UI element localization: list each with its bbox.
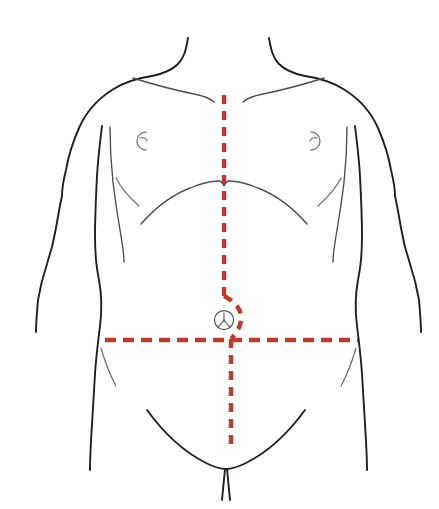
nipple-right-icon [310, 132, 320, 150]
flank-crease-left [101, 348, 116, 386]
umbilicus-icon [215, 311, 234, 330]
nipple-left-icon [137, 132, 147, 150]
shoulder-arm-left-outline [36, 76, 152, 332]
pectoral-crease-right [318, 178, 341, 206]
neck-right-line [269, 38, 305, 76]
costal-margin-line [141, 181, 307, 224]
pubic-cleft-line-2 [227, 469, 230, 500]
pectoral-crease-left [116, 178, 139, 206]
neck-left-line [152, 38, 188, 76]
pubic-cleft-line [222, 469, 225, 500]
anatomy-diagram-canvas: — — — — — — — —— [0, 0, 439, 509]
torso-illustration [0, 0, 439, 509]
inner-arm-left-line [90, 126, 102, 470]
inner-arm-right-line [355, 126, 367, 470]
inguinal-curve-line [147, 410, 305, 469]
pectoral-left-line [110, 127, 124, 262]
pectoral-right-line [333, 127, 347, 262]
shoulder-arm-right-outline [305, 76, 421, 332]
clavicle-right-line [243, 78, 324, 102]
clavicle-left-line [133, 78, 214, 102]
flank-crease-right [341, 348, 356, 386]
